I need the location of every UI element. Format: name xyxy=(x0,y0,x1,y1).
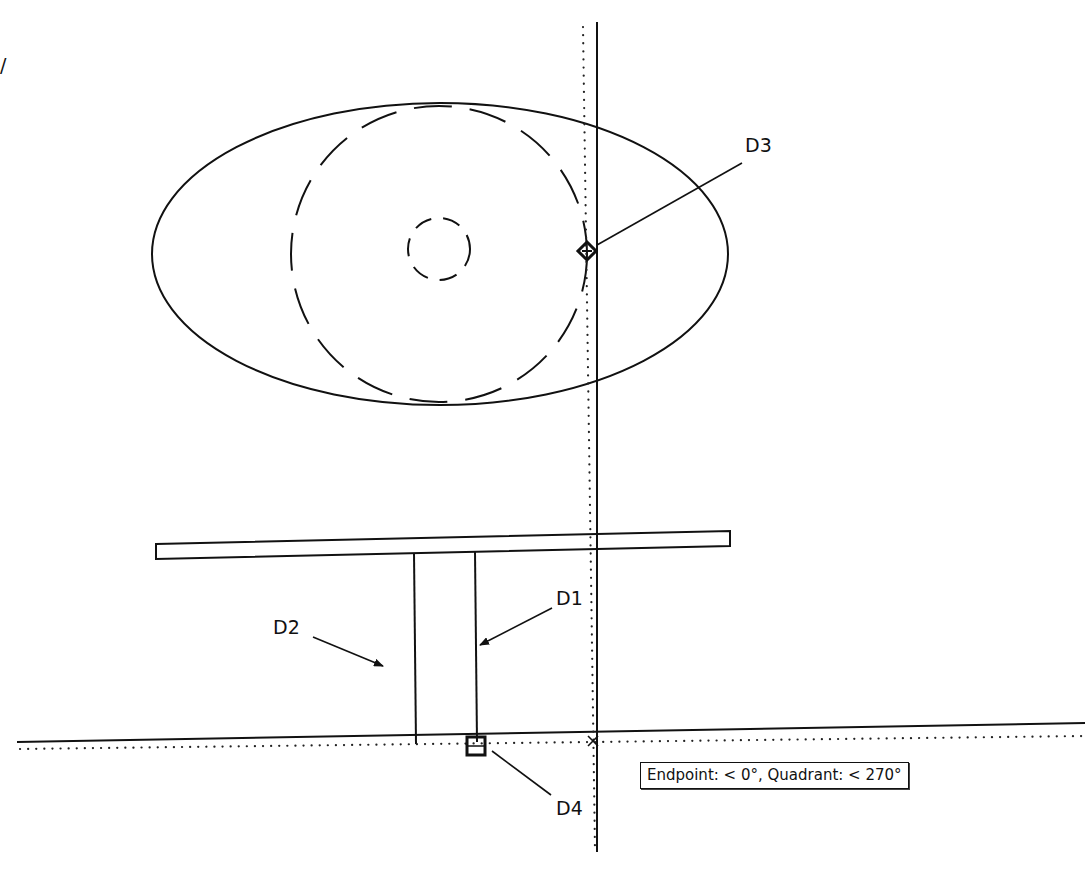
column-line-left[interactable] xyxy=(414,553,416,744)
callout-label-d2: D2 xyxy=(273,616,300,638)
dashed-circle-small-path[interactable] xyxy=(408,218,470,280)
horizontal-tracking-line xyxy=(20,736,1085,749)
callout-label-d3: D3 xyxy=(745,134,772,156)
ground-line[interactable] xyxy=(17,723,1085,742)
callout-label-d1: D1 xyxy=(556,587,583,609)
snap-tracking-tooltip: Endpoint: < 0°, Quadrant: < 270° xyxy=(640,762,909,789)
dashed-circle-small[interactable] xyxy=(408,218,470,280)
callout-leader-d2 xyxy=(313,637,383,666)
callout-label-d4: D4 xyxy=(556,797,583,819)
dashed-circle-large[interactable] xyxy=(291,106,587,402)
ground-line-path[interactable] xyxy=(17,723,1085,742)
callout-leader-d1 xyxy=(480,608,552,645)
column-line-right[interactable] xyxy=(475,552,477,742)
dashed-circle-large-path[interactable] xyxy=(291,106,587,402)
column-lines[interactable] xyxy=(414,552,477,744)
drawing-canvas[interactable]: D1D2D3D4 / xyxy=(0,0,1088,882)
slab-outline[interactable] xyxy=(156,531,730,559)
snap-markers xyxy=(467,242,598,755)
edge-mark: / xyxy=(0,54,7,76)
callout-leader-d3 xyxy=(597,163,742,245)
callout-labels: D1D2D3D4 xyxy=(273,134,772,819)
vertical-tracking-line xyxy=(583,27,595,850)
ellipse-path[interactable] xyxy=(152,103,728,405)
slab-rectangle[interactable] xyxy=(156,531,730,559)
callout-leader-d4 xyxy=(492,751,551,795)
ellipse-outline[interactable] xyxy=(152,103,728,405)
